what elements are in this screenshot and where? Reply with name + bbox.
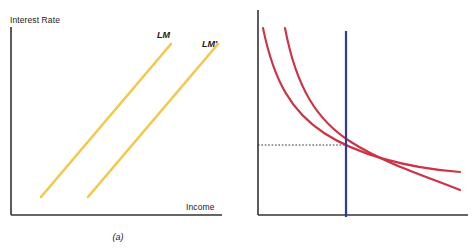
demand-prime-curve — [285, 28, 460, 190]
panel-a-plot — [0, 0, 236, 250]
lm-prime-curve-label: LM′ — [202, 40, 217, 49]
panel-b-plot — [236, 0, 472, 250]
panel-a: Interest Rate Income LM LM′ (a) — [0, 0, 236, 250]
lm-curve-label: LM — [157, 31, 170, 40]
panel-a-xlabel: Income — [186, 203, 214, 212]
figure-root: Interest Rate Income LM LM′ (a) 1 P — [0, 0, 472, 250]
panel-b: 1 P 1 P0 S D D′ M (b) — [236, 0, 472, 250]
panel-a-ylabel: Interest Rate — [10, 16, 60, 25]
panel-a-caption: (a) — [98, 232, 138, 242]
demand-curve — [263, 28, 460, 172]
